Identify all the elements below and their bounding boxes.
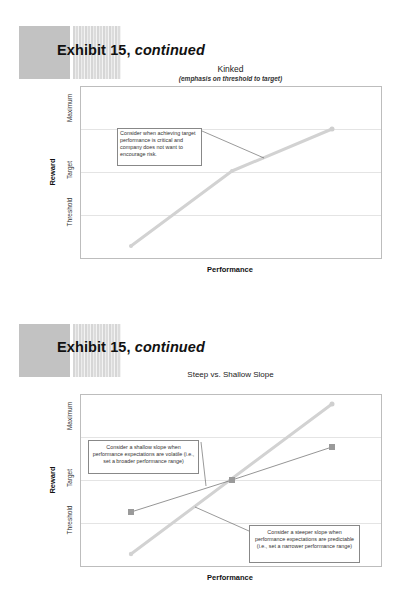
ytick-threshold: Threshold — [66, 505, 73, 534]
data-point — [129, 552, 133, 556]
chart-steep-vs-shallow: Maximum Target Threshold Reward Performa… — [0, 0, 405, 608]
x-axis-label: Performance — [207, 573, 253, 582]
square-marker — [128, 509, 134, 515]
square-marker — [329, 444, 335, 450]
y-axis-label: Reward — [48, 466, 57, 494]
annotation-box-shallow: Consider a shallow slope when performanc… — [88, 440, 199, 474]
ytick-target: Target — [66, 469, 74, 487]
square-marker — [229, 477, 235, 483]
data-point — [330, 402, 335, 407]
ytick-maximum: Maximum — [66, 402, 73, 430]
annotation-box-steep: Consider a steeper slope when performanc… — [249, 525, 360, 563]
